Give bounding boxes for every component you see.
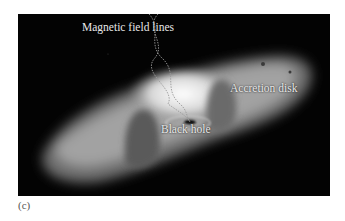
accretion-disk-label: Accretion disk [230, 82, 297, 94]
magnetic-field-lines-label: Magnetic field lines [82, 21, 174, 33]
accretion-disk-art [18, 14, 330, 196]
black-hole-label: Black hole [161, 123, 211, 135]
panel-label: (c) [18, 199, 30, 211]
black-hole-illustration: Magnetic field lines Accretion disk Blac… [18, 14, 330, 196]
